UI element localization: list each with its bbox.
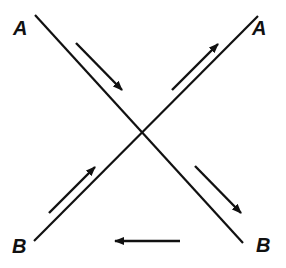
arrow-lower-left xyxy=(49,167,95,213)
crossing-lines-diagram xyxy=(0,0,286,268)
label-a-top-left: A xyxy=(13,18,27,38)
arrow-lower-right xyxy=(195,166,241,213)
arrow-upper-right xyxy=(172,44,218,90)
label-b-bottom-right: B xyxy=(256,235,270,255)
label-a-top-right: A xyxy=(252,18,266,38)
label-b-bottom-left: B xyxy=(12,236,26,256)
